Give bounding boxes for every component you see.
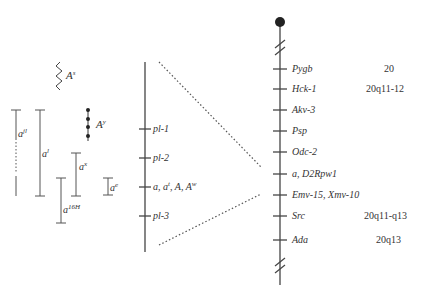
gene-odc2: Odc-2 (292, 147, 317, 157)
label-ax: ax (79, 162, 87, 172)
label-as: As (66, 70, 75, 81)
human-ada: 20q13 (376, 235, 401, 245)
as-wavy-line (56, 62, 62, 90)
locus-agouti-part2: , A, A (170, 181, 192, 192)
gene-emv15-xmv10: Emv-15, Xmv-10 (292, 190, 359, 200)
gene-psp: Psp (292, 126, 307, 136)
a16h-deletion-bar (56, 178, 66, 223)
locus-pl2: pl-2 (153, 153, 169, 163)
zoom-line-top (159, 62, 261, 167)
gene-ada: Ada (292, 235, 308, 245)
ax-deletion-bar (71, 153, 81, 196)
label-al-sup: l (47, 147, 49, 155)
chromosome (273, 22, 287, 285)
gene-hck1: Hck-1 (292, 84, 316, 94)
human-pygb: 20 (384, 64, 394, 74)
label-ay-sup: y (103, 118, 106, 126)
label-ax-sup: x (84, 160, 87, 168)
centromere-icon (275, 17, 285, 27)
gene-a-d2rpw1: a, D2Rpw1 (292, 169, 337, 179)
label-as-base: A (66, 69, 73, 81)
label-ajl: ajl (18, 129, 27, 139)
detail-map-line (139, 62, 151, 252)
ay-beaded-line (86, 108, 90, 141)
human-src: 20q11-q13 (364, 211, 407, 221)
locus-agouti: a, at, A, Aw (153, 182, 196, 192)
human-hck1: 20q11-12 (366, 84, 404, 94)
label-ae-sup: e (115, 181, 118, 189)
locus-pl3: pl-3 (153, 211, 169, 221)
locus-agouti-sup2: w (192, 180, 197, 188)
ajl-deletion-bar (11, 110, 21, 196)
zoom-line-bottom (159, 194, 261, 245)
gene-src: Src (292, 211, 305, 221)
label-ay-base: A (96, 118, 103, 130)
label-ae: ae (110, 183, 118, 193)
locus-agouti-part1: a, a (153, 181, 168, 192)
label-ay: Ay (96, 119, 106, 130)
diagram-canvas (0, 0, 428, 297)
gene-akv3: Akv-3 (292, 105, 315, 115)
locus-pl1: pl-1 (153, 124, 169, 134)
label-al: al (42, 149, 49, 159)
label-as-sup: s (73, 69, 76, 77)
gene-pygb: Pygb (292, 64, 313, 74)
label-ajl-sup: jl (23, 127, 27, 135)
label-a16h-sup: 16H (68, 203, 80, 211)
label-a16h: a16H (63, 205, 80, 215)
